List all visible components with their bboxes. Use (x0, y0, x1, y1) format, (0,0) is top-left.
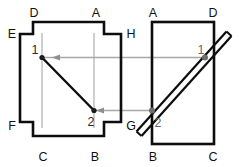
left-view-point-1-dot (39, 55, 44, 60)
left-view-point-2-dot (91, 108, 96, 113)
label-right-view-top-right: D (208, 6, 217, 20)
left-view-group (20, 22, 121, 136)
label-left-view-lower-right: G (126, 119, 136, 133)
true-length-line-1-2 (42, 58, 94, 111)
projection-arrowhead-point-2 (96, 108, 104, 114)
label-right-view-top-left: A (149, 6, 158, 20)
rod-cap-upper-right (227, 32, 232, 37)
right-view-labels: A D B C 1 2 (149, 6, 218, 164)
label-right-view-bottom-right: C (208, 150, 217, 164)
label-left-view-top-right: A (92, 6, 101, 20)
label-left-view-lower-left: F (8, 119, 16, 133)
projection-lines-group (42, 33, 205, 128)
left-view-labels: D A E H F G C B 1 2 (8, 6, 136, 164)
label-left-view-upper-left: E (8, 27, 16, 41)
label-left-view-bottom-right: B (91, 150, 99, 164)
right-view-point-2-dot (149, 108, 155, 114)
label-left-view-point-2: 2 (88, 115, 95, 129)
label-left-view-bottom-left: C (38, 150, 47, 164)
label-left-view-top-left: D (29, 6, 38, 20)
left-view-outline (20, 22, 121, 136)
rod-cap-lower-left (137, 132, 142, 137)
label-right-view-point-1: 1 (198, 43, 205, 57)
label-right-view-point-2: 2 (155, 116, 162, 130)
diagram-svg: D A E H F G C B 1 2 A D B C 1 2 (0, 0, 239, 167)
label-left-view-upper-right: H (126, 27, 135, 41)
label-left-view-point-1: 1 (32, 43, 39, 57)
true-length-line-group (39, 55, 96, 113)
label-right-view-bottom-left: B (149, 150, 157, 164)
engineering-drawing-canvas: D A E H F G C B 1 2 A D B C 1 2 (0, 0, 239, 167)
projection-arrowhead-point-1 (52, 55, 60, 61)
